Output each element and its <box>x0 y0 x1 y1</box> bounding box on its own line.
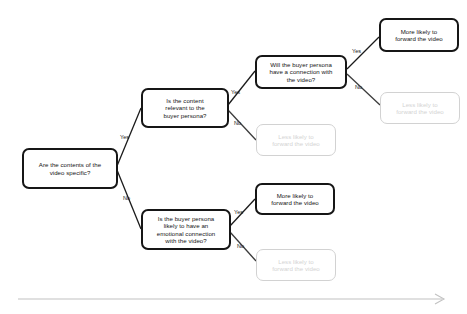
edge-q3-no <box>347 74 380 105</box>
edge-label-q3-yes: Yes <box>352 48 361 54</box>
decision-node-contents-specific[interactable]: Are the contents of the video specific? <box>22 148 118 189</box>
node-label: Are the contents of the video specific? <box>36 161 104 175</box>
edge-q2-no <box>228 110 256 140</box>
node-label: Is the content relevant to the buyer per… <box>160 97 209 119</box>
node-label: Is the buyer persona likely to have an e… <box>154 215 219 244</box>
flowchart-canvas: Are the contents of the video specific? … <box>0 0 467 314</box>
decision-node-content-relevant[interactable]: Is the content relevant to the buyer per… <box>141 88 229 128</box>
decision-node-persona-connection[interactable]: Will the buyer persona have a connection… <box>255 55 347 89</box>
outcome-node-less-likely-relevance[interactable]: Less likely to forward the video <box>256 124 336 156</box>
outcome-node-more-likely-top[interactable]: More likely to forward the video <box>379 18 459 52</box>
outcome-node-less-likely-emotional[interactable]: Less likely to forward the video <box>256 249 336 281</box>
edge-label-q3-no: No <box>355 84 362 90</box>
node-label: More likely to forward the video <box>268 192 322 206</box>
node-label: More likely to forward the video <box>392 28 446 42</box>
outcome-node-less-likely-connection[interactable]: Less likely to forward the video <box>380 92 460 124</box>
timeline-arrowhead-icon <box>435 294 444 304</box>
node-label: Less likely to forward the video <box>269 258 323 272</box>
edge-label-q4-no: No <box>237 243 244 249</box>
edge-label-q1-no: No <box>123 195 130 201</box>
edge-label-q1-yes: Yes <box>120 134 129 140</box>
decision-node-emotional-connection[interactable]: Is the buyer persona likely to have an e… <box>141 209 231 250</box>
outcome-node-more-likely-bottom[interactable]: More likely to forward the video <box>255 183 335 215</box>
node-label: Less likely to forward the video <box>393 101 447 115</box>
edge-label-q2-yes: Yes <box>231 89 240 95</box>
node-label: Less likely to forward the video <box>269 133 323 147</box>
node-label: Will the buyer persona have a connection… <box>266 61 335 83</box>
edge-q2-yes <box>228 71 255 105</box>
edge-label-q2-no: No <box>234 120 241 126</box>
edge-label-q4-yes: Yes <box>234 209 243 215</box>
